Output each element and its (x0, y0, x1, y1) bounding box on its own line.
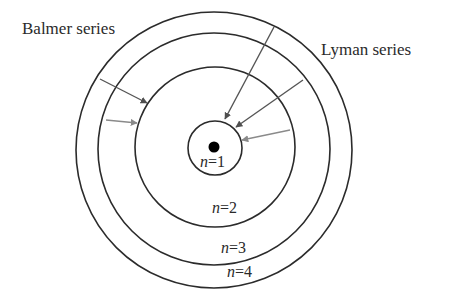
arrow-lyman-3-to-1 (236, 80, 303, 127)
level-label-n1: n=1 (200, 154, 225, 170)
bohr-model-diagram: Balmer series Lyman series n=1 n=2 n=3 n… (0, 0, 451, 307)
arrow-balmer-4-to-2 (100, 79, 147, 103)
arrow-balmer-3-to-2 (106, 120, 137, 123)
level-label-n3: n=3 (221, 240, 246, 256)
level-label-n2: n=2 (212, 200, 237, 216)
arrow-lyman-2-to-1 (242, 130, 290, 140)
lyman-series-label: Lyman series (321, 41, 411, 58)
nucleus-dot (209, 142, 220, 153)
balmer-series-label: Balmer series (22, 20, 115, 37)
level-label-n4: n=4 (227, 264, 252, 280)
